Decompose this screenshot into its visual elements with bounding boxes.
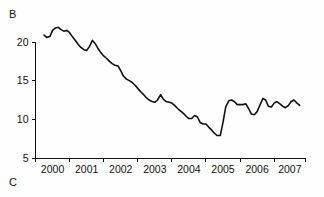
y-axis: 5101520 xyxy=(17,36,36,164)
chart-svg: 5101520 20002001200220032004200520062007 xyxy=(0,0,324,197)
x-tick-label: 2007 xyxy=(278,163,302,175)
y-tick-label: 5 xyxy=(23,152,29,164)
x-tick-label: 2001 xyxy=(75,163,99,175)
y-tick-label: 10 xyxy=(17,113,29,125)
figure-panel: B 5101520 200020012002200320042005200620… xyxy=(0,0,324,197)
x-tick-label: 2003 xyxy=(143,163,167,175)
x-tick-label: 2004 xyxy=(177,163,201,175)
x-tick-label: 2002 xyxy=(109,163,133,175)
x-tick-label: 2000 xyxy=(41,163,65,175)
data-line-rate xyxy=(44,27,300,135)
data-series-group xyxy=(44,27,300,135)
y-tick-label: 20 xyxy=(17,36,29,48)
line-chart: 5101520 20002001200220032004200520062007 xyxy=(0,0,324,197)
x-tick-label: 2006 xyxy=(245,163,269,175)
panel-label-c: C xyxy=(9,177,17,188)
x-tick-label: 2005 xyxy=(211,163,235,175)
x-axis: 20002001200220032004200520062007 xyxy=(36,158,306,175)
y-tick-label: 15 xyxy=(17,74,29,86)
